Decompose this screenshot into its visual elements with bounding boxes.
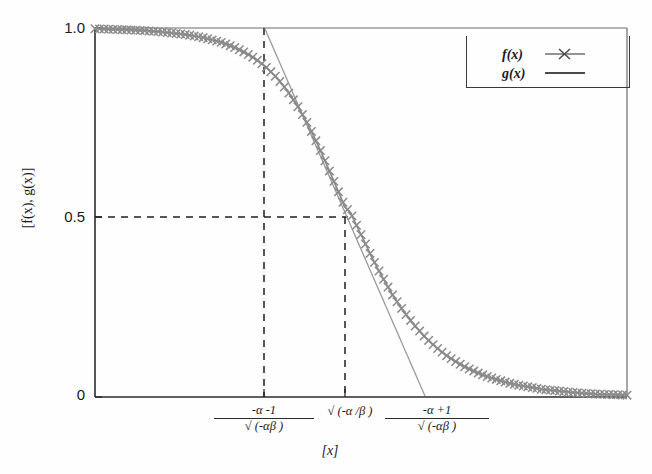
x-tick-label-left: -α -1 √ (-αβ ) [214, 404, 314, 433]
x-tick-label-left-denominator: √ (-αβ ) [214, 419, 314, 433]
y-axis-label: [f(x), g(x)] [20, 118, 36, 278]
legend-label-f: f(x) [502, 47, 523, 63]
y-tick-label-mid: 0.5 [25, 208, 85, 225]
legend-box [466, 36, 630, 88]
x-tick-label-left-numerator: -α -1 [214, 404, 314, 419]
y-tick-label-bottom: 0 [25, 386, 85, 403]
x-tick-label-right-denominator: √ (-αβ ) [385, 419, 489, 433]
x-tick-label-mid: √ (-α /β ) [302, 404, 398, 419]
chart-figure: f(x) g(x) [f(x), g(x)] 1.0 0.5 0 -α -1 √… [0, 0, 652, 474]
x-axis-label: [x] [300, 443, 360, 459]
x-tick-label-right: -α +1 √ (-αβ ) [385, 404, 489, 433]
legend-entry-g: g(x) [502, 66, 525, 82]
legend-label-g: g(x) [502, 66, 525, 82]
x-tick-label-right-numerator: -α +1 [385, 404, 489, 419]
y-tick-label-top: 1.0 [25, 19, 85, 36]
legend-entry-f: f(x) [502, 47, 523, 63]
